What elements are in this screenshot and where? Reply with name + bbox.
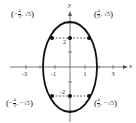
point-top-right	[87, 36, 91, 40]
y-tick-label-m2: -2	[60, 89, 65, 95]
point-bottom-right	[87, 94, 91, 98]
x-axis-arrow-icon	[123, 65, 128, 69]
x-tick-label-p1: 1	[84, 71, 87, 77]
x-axis-label: x	[129, 63, 132, 70]
x-tick-label-m1: -1	[51, 71, 56, 77]
point-top-left	[50, 36, 54, 40]
y-axis-arrow-icon	[68, 11, 72, 16]
point-axis-top	[68, 36, 72, 40]
point-label-top-left: (−43, √5)	[11, 9, 34, 19]
point-bottom-left	[50, 94, 54, 98]
y-axis-label: y	[68, 2, 71, 9]
point-label-bottom-left: (−43, −√5)	[6, 98, 33, 108]
point-label-bottom-right: (43, −√5)	[94, 98, 117, 108]
x-tick-label-m3: -3	[22, 71, 27, 77]
point-axis-bottom	[68, 94, 72, 98]
point-label-top-right: (43, √5)	[94, 9, 113, 19]
x-tick-label-p3: 3	[112, 71, 115, 77]
y-tick-label-p2: 2	[63, 39, 66, 45]
